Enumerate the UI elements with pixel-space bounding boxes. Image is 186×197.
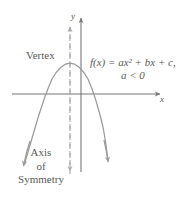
parabola-figure: Vertex f(x) = ax² + bx + c, a < 0 Axis o… bbox=[0, 0, 186, 197]
y-axis-label: y bbox=[71, 12, 75, 21]
axis-of-symmetry-line2: of bbox=[8, 161, 74, 173]
formula-condition: a < 0 bbox=[90, 70, 176, 82]
axis-of-symmetry-line1: Axis bbox=[8, 147, 74, 159]
x-axis-label: x bbox=[160, 95, 164, 104]
function-formula-block: f(x) = ax² + bx + c, a < 0 bbox=[90, 57, 176, 81]
axis-of-symmetry-label: Axis of Symmetry bbox=[8, 147, 74, 188]
vertex-label: Vertex bbox=[26, 50, 55, 62]
axis-of-symmetry-line3: Symmetry bbox=[8, 174, 74, 186]
formula-expression: f(x) = ax² + bx + c, bbox=[90, 56, 176, 68]
